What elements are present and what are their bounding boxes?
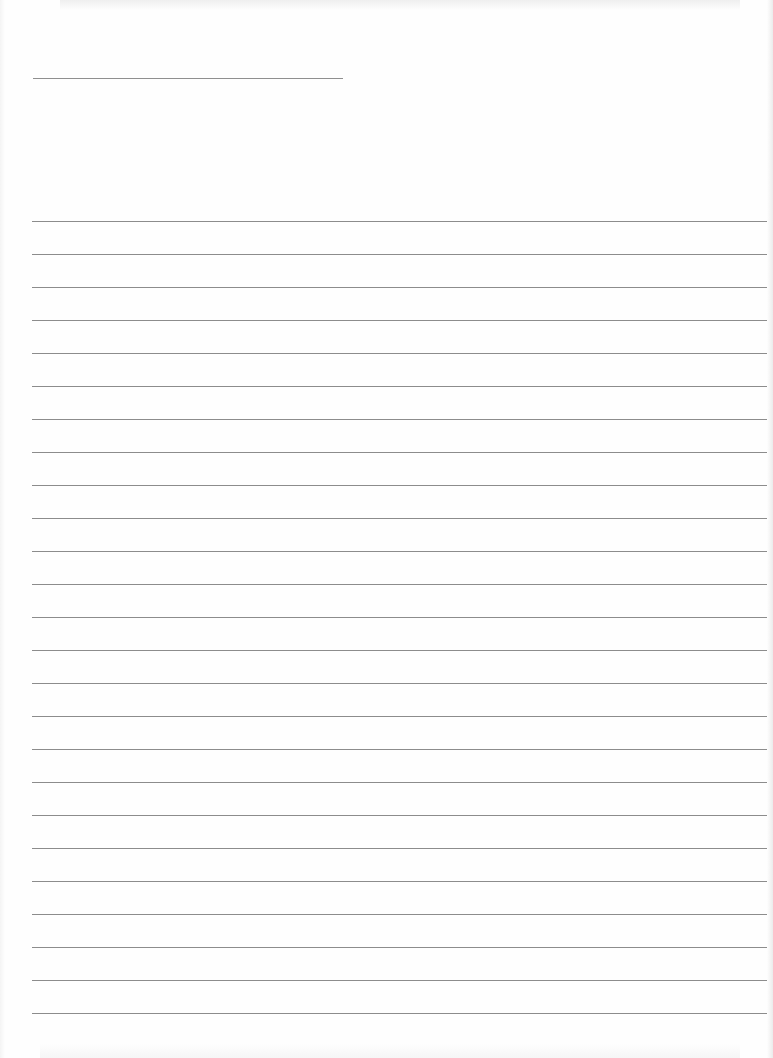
- scan-bleed-bottom: [40, 1044, 740, 1058]
- ruled-line: [32, 419, 767, 420]
- ruled-line: [32, 353, 767, 354]
- ruled-line: [32, 716, 767, 717]
- ruled-line: [32, 617, 767, 618]
- ruled-line: [32, 749, 767, 750]
- scan-bleed-top: [60, 0, 740, 10]
- ruled-line: [32, 386, 767, 387]
- header-write-line: [33, 78, 343, 79]
- ruled-line: [32, 254, 767, 255]
- lined-paper-page: [0, 0, 773, 1058]
- ruled-line: [32, 947, 767, 948]
- ruled-line: [32, 815, 767, 816]
- ruled-line: [32, 551, 767, 552]
- ruled-line: [32, 782, 767, 783]
- ruled-line: [32, 914, 767, 915]
- ruled-line: [32, 980, 767, 981]
- scan-edge-right: [767, 0, 773, 1058]
- scan-edge-left: [0, 0, 5, 1058]
- ruled-line: [32, 881, 767, 882]
- ruled-line: [32, 452, 767, 453]
- ruled-line: [32, 848, 767, 849]
- ruled-line: [32, 221, 767, 222]
- ruled-line: [32, 650, 767, 651]
- ruled-line: [32, 485, 767, 486]
- ruled-line: [32, 518, 767, 519]
- ruled-line: [32, 1013, 767, 1014]
- ruled-line: [32, 287, 767, 288]
- ruled-line: [32, 683, 767, 684]
- ruled-line: [32, 320, 767, 321]
- ruled-line: [32, 584, 767, 585]
